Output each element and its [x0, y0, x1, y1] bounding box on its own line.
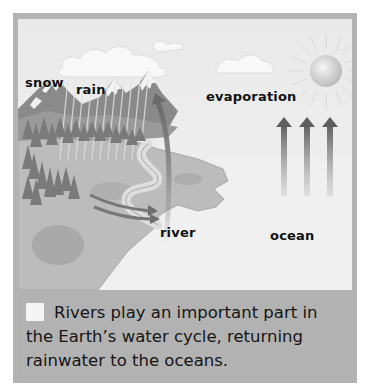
- label-ocean: ocean: [270, 228, 314, 243]
- caption-box: Rivers play an important part in the Ear…: [18, 290, 352, 383]
- label-snow: snow: [25, 75, 64, 90]
- label-river: river: [160, 225, 196, 240]
- label-evaporation: evaporation: [206, 89, 297, 104]
- caption: Rivers play an important part in the Ear…: [26, 301, 346, 373]
- water-cycle-diagram: snow rain evaporation river ocean: [18, 19, 352, 290]
- caption-marker-icon: [26, 303, 44, 321]
- diagram-illustration: [18, 19, 352, 290]
- caption-text: Rivers play an important part in the Ear…: [26, 303, 317, 370]
- label-rain: rain: [76, 82, 106, 97]
- figure-frame: snow rain evaporation river ocean Rivers…: [13, 13, 357, 383]
- evaporation-columns-icon: [276, 117, 338, 196]
